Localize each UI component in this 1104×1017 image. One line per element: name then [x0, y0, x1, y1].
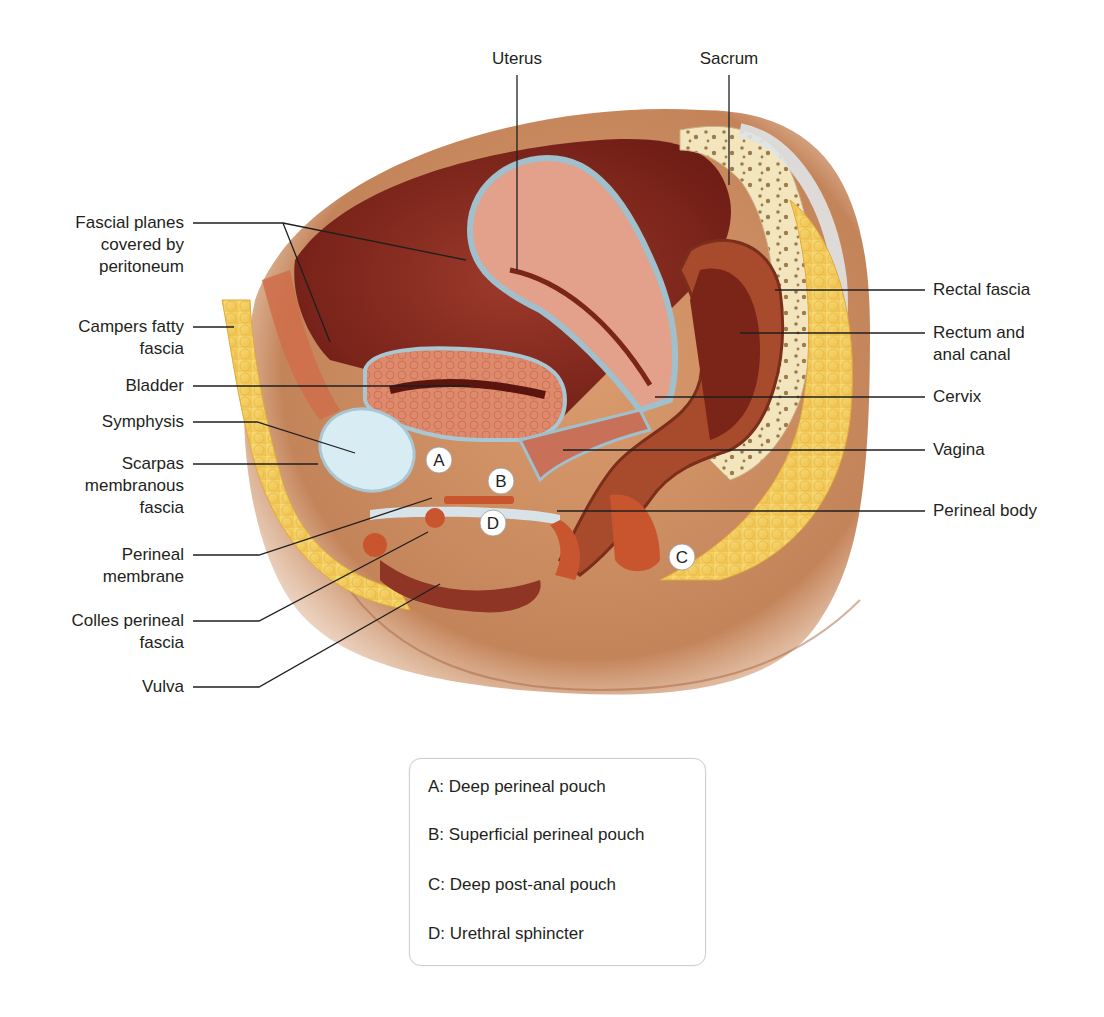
- label-perineal-body: Perineal body: [933, 500, 1093, 522]
- label-scarpas-fascia: Scarpas membranous fascia: [20, 453, 184, 519]
- legend-item-c: C: Deep post-anal pouch: [428, 874, 616, 896]
- legend-box: A: Deep perineal pouch B: Superficial pe…: [409, 758, 706, 966]
- label-vagina: Vagina: [933, 439, 1093, 461]
- svg-text:D: D: [487, 514, 499, 533]
- label-fascial-planes: Fascial planes covered by peritoneum: [20, 212, 184, 278]
- label-perineal-membrane: Perineal membrane: [20, 544, 184, 588]
- legend-item-b: B: Superficial perineal pouch: [428, 824, 644, 846]
- svg-text:C: C: [676, 548, 688, 567]
- svg-text:B: B: [495, 472, 506, 491]
- svg-text:A: A: [433, 451, 445, 470]
- label-cervix: Cervix: [933, 386, 1093, 408]
- superficial-transverse-muscle: [444, 496, 514, 504]
- label-rectum-anal-canal: Rectum and anal canal: [933, 322, 1093, 366]
- marker-a: A: [426, 447, 452, 473]
- label-symphysis: Symphysis: [20, 411, 184, 433]
- label-colles-fascia: Colles perineal fascia: [20, 610, 184, 654]
- label-rectal-fascia: Rectal fascia: [933, 279, 1093, 301]
- label-campers-fatty-fascia: Campers fatty fascia: [20, 316, 184, 360]
- label-vulva: Vulva: [20, 676, 184, 698]
- marker-c: C: [669, 544, 695, 570]
- marker-d: D: [480, 510, 506, 536]
- legend-item-d: D: Urethral sphincter: [428, 923, 584, 945]
- marker-b: B: [488, 468, 514, 494]
- label-uterus: Uterus: [487, 48, 547, 70]
- legend-item-a: A: Deep perineal pouch: [428, 776, 606, 798]
- label-bladder: Bladder: [20, 375, 184, 397]
- label-sacrum: Sacrum: [692, 48, 766, 70]
